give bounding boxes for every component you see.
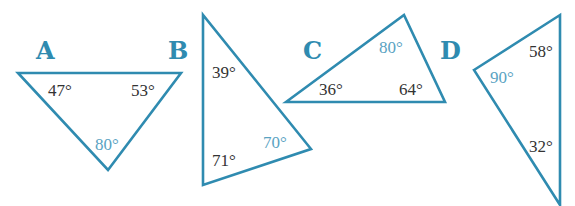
triangle-label: D	[440, 36, 461, 65]
angle-label: 53°	[131, 81, 155, 100]
triangle-a: A47°53°80°	[18, 36, 181, 170]
angle-label: 47°	[48, 81, 72, 100]
angle-label: 80°	[379, 38, 403, 57]
triangle-label: C	[303, 36, 322, 65]
angle-label: 64°	[399, 80, 423, 99]
triangle-label: B	[168, 36, 188, 65]
angle-label: 36°	[319, 80, 343, 99]
angle-label: 58°	[529, 42, 553, 61]
angle-label: 80°	[95, 135, 119, 154]
triangle-d: D90°58°32°	[440, 15, 560, 205]
triangle-label: A	[35, 36, 55, 65]
angle-label: 70°	[263, 133, 287, 152]
triangle-outline	[18, 73, 181, 170]
triangles-diagram: A47°53°80°B39°71°70°C36°80°64°D90°58°32°	[0, 0, 575, 206]
angle-label: 39°	[212, 63, 236, 82]
angle-label: 90°	[490, 68, 514, 87]
angle-label: 71°	[212, 151, 236, 170]
diagram-canvas: A47°53°80°B39°71°70°C36°80°64°D90°58°32°	[0, 0, 575, 206]
triangle-c: C36°80°64°	[286, 15, 445, 102]
angle-label: 32°	[529, 137, 553, 156]
